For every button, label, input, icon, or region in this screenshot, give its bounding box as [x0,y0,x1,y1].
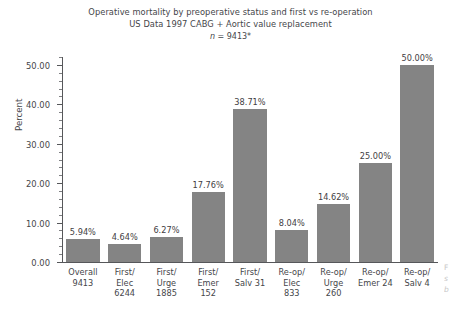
x-tick-label: Re-op/Emer 24 [358,267,393,288]
bar: 14.62% [317,204,350,262]
bar: 4.64% [108,244,141,262]
y-axis-label: Percent [14,99,24,131]
x-tick-label-line: Salv 31 [235,278,265,289]
y-tick-label: 10.00 [26,219,50,229]
x-tick-label-line: First/ [197,267,219,278]
y-tick-minor [59,230,62,231]
bar-value-label: 4.64% [112,232,138,242]
x-tick-label: First/Elec6244 [114,267,135,299]
x-tick-label-line: 1885 [156,288,177,299]
bleed-line-2: s [444,273,460,284]
bar-value-label: 14.62% [318,192,349,202]
bar-value-label: 38.71% [234,97,265,107]
x-tick-label-line: Emer [197,278,219,289]
y-tick-major: 50.00 [57,65,62,66]
bar: 8.04% [275,230,308,262]
x-tick-label-line: Emer 24 [358,278,393,289]
y-tick-major: 20.00 [57,183,62,184]
y-tick-minor [59,57,62,58]
bar: 25.00% [359,163,392,262]
y-tick-minor [59,215,62,216]
x-tick-label-line: Elec [279,278,305,289]
y-tick-minor [59,246,62,247]
x-tick-label-line: 9413 [68,278,97,289]
chart-title-block: Operative mortality by preoperative stat… [0,6,461,43]
y-tick-minor [59,152,62,153]
y-tick-label: 40.00 [26,100,50,110]
x-tick-label: First/Urge1885 [156,267,177,299]
y-tick-major: 40.00 [57,104,62,105]
bar-value-label: 8.04% [279,218,305,228]
x-tick-label: Re-op/Salv 4 [404,267,430,288]
y-tick-minor [59,238,62,239]
x-axis-line [62,262,438,263]
chart-subtitle: US Data 1997 CABG + Aortic value replace… [0,18,461,30]
x-tick-label-line: First/ [114,267,135,278]
x-tick-label-line: First/ [235,267,265,278]
x-tick-label: First/Salv 31 [235,267,265,288]
x-tick-label-line: 6244 [114,288,135,299]
bleed-line-1: F [444,262,460,273]
y-tick-minor [59,89,62,90]
x-tick-label-line: 260 [320,288,346,299]
y-tick-minor [59,199,62,200]
y-tick-label: 30.00 [26,140,50,150]
x-tick-label-line: Re-op/ [320,267,346,278]
x-tick-label-line: Salv 4 [404,278,430,289]
y-tick-minor [59,128,62,129]
y-tick-minor [59,167,62,168]
x-tick-label-line: Elec [114,278,135,289]
x-tick-label-line: Re-op/ [279,267,305,278]
x-tick-label-line: 833 [279,288,305,299]
y-tick-major: 30.00 [57,144,62,145]
y-tick-minor [59,96,62,97]
y-tick-label: 0.00 [31,258,50,268]
y-tick-minor [59,120,62,121]
x-tick-label: Re-op/Elec833 [279,267,305,299]
y-tick-minor [59,112,62,113]
x-tick-label: First/Emer152 [197,267,219,299]
x-tick-label-line: Urge [156,278,177,289]
figure-root: Operative mortality by preoperative stat… [0,0,461,323]
y-tick-minor [59,160,62,161]
x-tick-label-line: Re-op/ [358,267,393,278]
plot-area: 0.0010.0020.0030.0040.0050.00 5.94%Overa… [62,57,438,263]
y-tick-minor [59,207,62,208]
bar-value-label: 25.00% [360,151,391,161]
bar: 38.71% [233,109,266,262]
x-tick-label-line: 152 [197,288,219,299]
page-bleed-caption: F s b [444,262,460,295]
y-tick-major: 10.00 [57,223,62,224]
chart-title: Operative mortality by preoperative stat… [0,6,461,18]
x-tick-label-line: Overall [68,267,97,278]
y-tick-label: 50.00 [26,61,50,71]
x-tick-label-line: Urge [320,278,346,289]
sample-size-value: = 9413* [215,32,251,41]
bleed-line-3: b [444,284,460,295]
bar-value-label: 5.94% [70,227,96,237]
x-tick-label-line: Re-op/ [404,267,430,278]
x-tick-label: Overall9413 [68,267,97,288]
y-tick-major: 0.00 [57,262,62,263]
bar-value-label: 17.76% [193,180,224,190]
y-axis-line [62,57,63,263]
bar: 50.00% [400,65,433,262]
y-tick-minor [59,73,62,74]
y-tick-minor [59,191,62,192]
y-tick-label: 20.00 [26,179,50,189]
bar: 6.27% [150,237,183,262]
bar: 17.76% [192,192,225,262]
chart-sample-size: n = 9413* [0,31,461,43]
bar-value-label: 50.00% [401,53,432,63]
x-tick-label: Re-op/Urge260 [320,267,346,299]
y-tick-minor [59,81,62,82]
bar: 5.94% [66,239,99,262]
y-tick-minor [59,136,62,137]
y-tick-minor [59,254,62,255]
x-tick-label-line: First/ [156,267,177,278]
y-tick-minor [59,175,62,176]
bar-value-label: 6.27% [153,225,179,235]
